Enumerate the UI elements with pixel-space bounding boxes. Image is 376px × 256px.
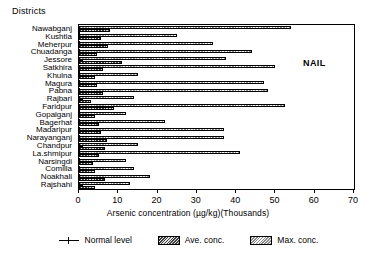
normal-level-marker xyxy=(79,96,82,103)
bar-max-conc xyxy=(79,89,268,92)
normal-level-marker xyxy=(79,49,82,56)
y-axis-title: Districts xyxy=(12,6,46,16)
normal-level-marker xyxy=(79,166,82,173)
x-tick-label: 20 xyxy=(152,195,162,205)
bar-ave-conc xyxy=(79,147,105,150)
x-tick xyxy=(314,190,315,193)
normal-level-marker xyxy=(79,41,82,48)
legend-item: Ave. conc. xyxy=(158,235,225,245)
normal-level-marker xyxy=(79,65,82,72)
x-tick-label: 0 xyxy=(75,195,80,205)
legend-swatch-ave-conc xyxy=(158,236,180,245)
x-axis-title: Arsenic concentration (µg/kg)(Thousands) xyxy=(0,208,376,218)
bar-max-conc xyxy=(79,81,264,84)
normal-level-marker xyxy=(79,150,82,157)
x-tick xyxy=(196,190,197,193)
bar-max-conc xyxy=(79,151,240,154)
normal-level-marker xyxy=(79,111,82,118)
normal-level-marker xyxy=(79,26,82,33)
x-tick xyxy=(353,190,354,193)
x-tick-label: 10 xyxy=(112,195,122,205)
normal-level-marker xyxy=(79,57,82,64)
bar-ave-conc xyxy=(79,45,108,48)
x-axis-ticks xyxy=(78,190,355,194)
arsenic-concentration-bar-chart: Districts NawabganjKushtiaMeherpurChuada… xyxy=(0,0,376,256)
normal-level-marker xyxy=(79,72,82,79)
normal-level-marker xyxy=(79,33,82,40)
legend-item: Normal level xyxy=(58,235,132,245)
chart-legend: Normal levelAve. conc.Max. conc. xyxy=(0,231,376,249)
normal-level-marker xyxy=(79,80,82,87)
bar-ave-conc xyxy=(79,131,101,134)
bar-ave-conc xyxy=(79,178,105,181)
category-axis-labels: NawabganjKushtiaMeherpurChuadangaJessore… xyxy=(0,25,75,189)
normal-level-marker xyxy=(79,135,82,142)
x-tick xyxy=(78,190,79,193)
normal-level-marker xyxy=(79,127,82,134)
x-tick-label: 40 xyxy=(230,195,240,205)
plot-annotation-nail: NAIL xyxy=(303,58,326,68)
legend-swatch-normal-level xyxy=(58,236,80,245)
x-tick xyxy=(157,190,158,193)
x-tick xyxy=(274,190,275,193)
legend-label: Max. conc. xyxy=(277,235,318,245)
bar-ave-conc xyxy=(79,68,103,71)
legend-label: Ave. conc. xyxy=(185,235,225,245)
normal-level-marker xyxy=(79,88,82,95)
x-axis-tick-labels: 010203040506070 xyxy=(78,195,355,207)
bar-max-conc xyxy=(79,128,224,131)
bar-ave-conc xyxy=(79,107,114,110)
legend-swatch-max-conc xyxy=(250,236,272,245)
normal-level-marker xyxy=(79,158,82,165)
bars-layer xyxy=(79,25,354,189)
normal-level-marker xyxy=(79,174,82,181)
x-tick-label: 70 xyxy=(348,195,358,205)
bar-ave-conc xyxy=(79,37,101,40)
normal-level-marker xyxy=(79,104,82,111)
x-tick-label: 50 xyxy=(269,195,279,205)
x-tick xyxy=(235,190,236,193)
x-tick-label: 30 xyxy=(191,195,201,205)
bar-ave-conc xyxy=(79,139,107,142)
bar-max-conc xyxy=(79,65,275,68)
bar-max-conc xyxy=(79,26,291,29)
category-label: Rajshahi xyxy=(41,181,72,189)
bar-ave-conc xyxy=(79,61,122,64)
bar-max-conc xyxy=(79,50,252,53)
legend-label: Normal level xyxy=(85,235,132,245)
normal-level-marker xyxy=(79,182,82,189)
x-tick-label: 60 xyxy=(309,195,319,205)
x-tick xyxy=(117,190,118,193)
normal-level-marker xyxy=(79,119,82,126)
bar-ave-conc xyxy=(79,92,103,95)
normal-level-marker xyxy=(79,143,82,150)
legend-item: Max. conc. xyxy=(250,235,318,245)
bar-ave-conc xyxy=(79,29,110,32)
